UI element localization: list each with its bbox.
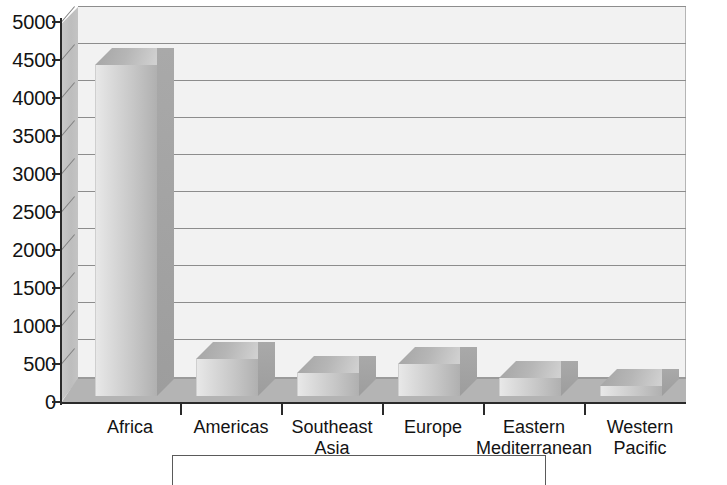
x-tick-label-eastern-mediterranean: Eastern Mediterranean: [476, 417, 592, 459]
x-tick-label-americas: Americas: [193, 417, 268, 438]
x-tick-label-western-pacific: Western Pacific: [607, 417, 674, 459]
x-tick-label-europe: Europe: [404, 417, 462, 438]
x-tick-label-southeast-asia: Southeast Asia: [291, 417, 372, 459]
legend-box: [172, 455, 546, 485]
x-tick-label-africa: Africa: [107, 417, 153, 438]
